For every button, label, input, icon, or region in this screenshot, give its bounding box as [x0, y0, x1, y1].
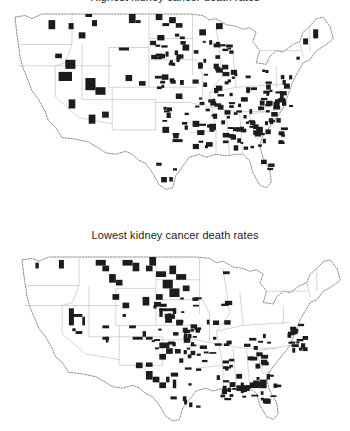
county-mark: [236, 110, 242, 112]
county-mark: [185, 125, 188, 129]
county-mark: [183, 45, 190, 51]
county-mark: [293, 331, 298, 334]
county-mark: [188, 334, 192, 338]
county-mark: [96, 260, 106, 266]
county-mark: [288, 333, 292, 338]
county-mark: [136, 363, 143, 369]
county-mark: [230, 382, 236, 387]
county-mark: [268, 375, 274, 377]
county-mark: [173, 139, 183, 142]
county-mark: [225, 110, 231, 114]
county-mark: [175, 349, 181, 354]
county-mark: [106, 337, 109, 343]
county-mark: [251, 87, 257, 90]
county-mark: [150, 41, 156, 45]
county-mark: [167, 107, 172, 111]
county-mark: [188, 383, 191, 385]
county-mark: [276, 118, 280, 123]
county-mark: [162, 23, 169, 26]
county-mark: [156, 294, 163, 300]
county-mark: [169, 266, 176, 275]
county-mark: [221, 304, 228, 306]
county-mark: [123, 260, 133, 266]
county-mark: [161, 45, 167, 47]
county-mark: [72, 328, 75, 331]
county-mark: [183, 286, 190, 292]
county-mark: [159, 382, 166, 388]
county-mark: [289, 105, 293, 107]
county-mark: [210, 101, 216, 105]
county-mark: [207, 124, 210, 127]
county-mark: [159, 354, 166, 360]
county-mark: [244, 115, 247, 119]
county-mark: [133, 263, 140, 272]
county-mark: [262, 70, 265, 73]
county-mark: [163, 280, 173, 289]
county-mark: [204, 74, 208, 76]
county-mark: [166, 377, 169, 383]
county-mark: [102, 325, 109, 328]
county-mark: [161, 177, 167, 182]
county-mark: [260, 380, 267, 389]
county-mark: [237, 138, 241, 143]
county-mark: [179, 358, 183, 363]
county-mark: [206, 109, 210, 112]
county-mark: [205, 145, 208, 148]
county-mark: [269, 120, 276, 122]
county-mark: [236, 374, 242, 379]
county-mark: [203, 59, 206, 63]
county-mark: [183, 328, 188, 333]
county-mark: [213, 114, 217, 119]
county-mark: [59, 260, 64, 269]
county-mark: [258, 106, 261, 110]
county-mark: [229, 50, 233, 53]
county-mark: [109, 274, 116, 283]
county-mark: [313, 29, 318, 38]
county-mark: [241, 142, 244, 144]
county-mark: [136, 20, 141, 23]
county-mark: [102, 112, 109, 118]
county-mark: [156, 271, 166, 277]
county-mark: [196, 406, 201, 408]
county-mark: [250, 121, 255, 125]
county-mark: [230, 93, 233, 96]
county-mark: [221, 395, 226, 398]
county-mark: [129, 325, 136, 328]
county-mark: [169, 17, 176, 23]
county-mark: [154, 302, 161, 307]
county-mark: [242, 129, 247, 133]
county-mark: [265, 121, 268, 125]
county-mark: [274, 102, 280, 106]
county-mark: [290, 327, 296, 330]
county-mark: [209, 40, 212, 45]
county-mark: [194, 50, 199, 54]
county-mark: [264, 399, 270, 404]
county-mark: [146, 363, 153, 367]
county-mark: [218, 105, 224, 110]
county-mark: [246, 87, 250, 92]
county-mark: [273, 106, 280, 110]
county-mark: [164, 107, 167, 110]
county-mark: [232, 388, 236, 390]
county-mark: [196, 368, 201, 371]
county-mark: [227, 116, 230, 119]
county-mark: [92, 20, 97, 26]
county-mark: [244, 344, 251, 347]
county-mark: [196, 330, 200, 333]
county-mark: [184, 338, 191, 343]
county-mark: [95, 87, 105, 95]
county-mark: [228, 79, 231, 82]
county-mark: [203, 41, 206, 43]
county-mark: [263, 334, 266, 338]
county-mark: [292, 348, 295, 353]
county-mark: [228, 127, 233, 129]
county-mark: [199, 124, 206, 126]
county-mark: [188, 354, 192, 358]
county-mark: [246, 385, 251, 388]
county-mark: [215, 55, 220, 59]
county-mark: [241, 389, 247, 392]
county-mark: [267, 342, 271, 344]
county-mark: [222, 49, 228, 51]
county-mark: [162, 74, 169, 79]
county-mark: [180, 80, 184, 85]
